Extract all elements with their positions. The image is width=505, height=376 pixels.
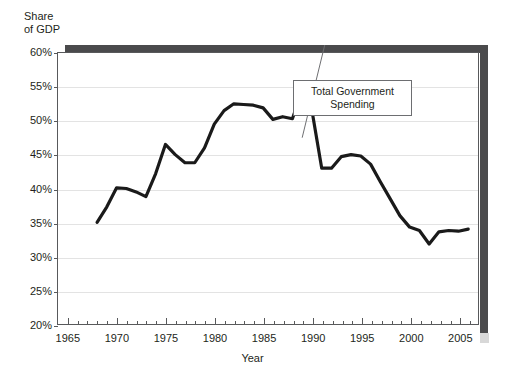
annotation-text-line2: Spending	[296, 98, 409, 111]
y-axis-tick-label: 60%	[6, 46, 52, 58]
y-axis-tick-label: 50%	[6, 114, 52, 126]
y-axis-tick-label: 45%	[6, 148, 52, 160]
x-axis-tick-label: 1970	[97, 332, 137, 344]
x-axis-tick-label: 2005	[440, 332, 480, 344]
annotation-leader-line	[58, 53, 478, 324]
annotation-total-government-spending: Total Government Spending	[293, 80, 412, 116]
y-axis-tick-label: 30%	[6, 251, 52, 263]
x-axis-tick-label: 2000	[391, 332, 431, 344]
y-axis-title-line1: Share	[24, 10, 60, 23]
plot-shadow-right	[480, 45, 488, 333]
x-axis-tick-label: 1985	[244, 332, 284, 344]
plot-area: 60%55%50%45%40%35%30%25%20% 196519701975…	[57, 52, 479, 325]
x-axis-title: Year	[0, 352, 505, 365]
plot-shadow-corner	[480, 333, 489, 343]
y-axis-tick-label: 55%	[6, 80, 52, 92]
y-axis-title: Share of GDP	[24, 10, 60, 36]
x-axis-tick-label: 1990	[293, 332, 333, 344]
chart-figure: Share of GDP 60%55%50%45%40%35%30%25%20%…	[0, 0, 505, 376]
y-axis-tick-label: 25%	[6, 285, 52, 297]
x-axis-tick-label: 1995	[342, 332, 382, 344]
y-axis-title-line2: of GDP	[24, 23, 60, 36]
annotation-text-line1: Total Government	[296, 85, 409, 98]
y-axis-tick-label: 20%	[6, 319, 52, 331]
x-axis-tick-label: 1975	[146, 332, 186, 344]
y-axis-tick-label: 40%	[6, 183, 52, 195]
x-axis-tick-label: 1965	[48, 332, 88, 344]
y-axis-tick	[54, 326, 58, 327]
y-axis-tick-label: 35%	[6, 217, 52, 229]
x-axis-tick-label: 1980	[195, 332, 235, 344]
